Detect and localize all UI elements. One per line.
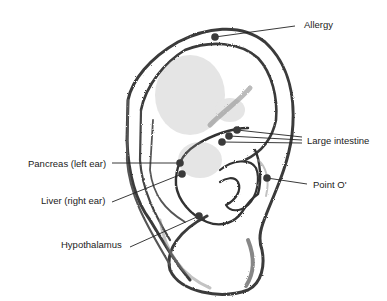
ear-diagram: Allergy Large intestine Point O' Pancrea… — [0, 0, 387, 301]
label-hypothalamus: Hypothalamus — [61, 240, 122, 250]
shading — [155, 55, 245, 178]
label-allergy: Allergy — [304, 20, 333, 30]
point-hypothalamus — [195, 212, 203, 220]
label-point-o: Point O' — [313, 180, 347, 190]
point-large-intestine-3 — [218, 138, 226, 146]
ear-illustration — [0, 0, 387, 301]
point-large-intestine-2 — [225, 132, 233, 140]
label-large-intestine: Large intestine — [307, 136, 369, 146]
point-large-intestine-1 — [233, 126, 241, 134]
label-pancreas: Pancreas (left ear) — [28, 159, 106, 169]
point-o — [263, 174, 271, 182]
label-liver: Liver (right ear) — [41, 196, 105, 206]
point-pancreas — [176, 159, 184, 167]
point-liver — [178, 170, 186, 178]
point-allergy — [211, 33, 219, 41]
